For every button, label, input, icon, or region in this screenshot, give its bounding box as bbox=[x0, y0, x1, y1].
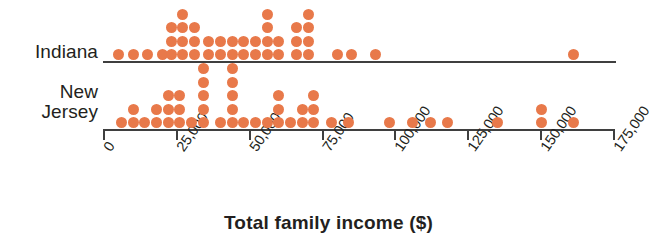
data-point-dot bbox=[177, 22, 188, 33]
data-point-dot bbox=[262, 9, 273, 20]
data-point-dot bbox=[163, 117, 174, 128]
data-point-dot bbox=[442, 117, 453, 128]
data-point-dot bbox=[116, 117, 127, 128]
data-point-dot bbox=[142, 49, 153, 60]
data-point-dot bbox=[174, 104, 185, 115]
data-point-dot bbox=[536, 104, 547, 115]
data-point-dot bbox=[273, 49, 284, 60]
data-point-dot bbox=[308, 90, 319, 101]
data-point-dot bbox=[198, 90, 209, 101]
data-point-dot bbox=[113, 49, 124, 60]
data-point-dot bbox=[227, 104, 238, 115]
data-point-dot bbox=[384, 117, 395, 128]
data-point-dot bbox=[238, 36, 249, 47]
data-point-dot bbox=[303, 9, 314, 20]
data-point-dot bbox=[174, 90, 185, 101]
data-point-dot bbox=[174, 117, 185, 128]
data-point-dot bbox=[189, 36, 200, 47]
x-axis-tick-label: 175,000 bbox=[610, 103, 652, 154]
data-point-dot bbox=[198, 63, 209, 74]
data-point-dot bbox=[128, 117, 139, 128]
data-point-dot bbox=[250, 49, 261, 60]
data-point-dot bbox=[297, 117, 308, 128]
data-point-dot bbox=[227, 90, 238, 101]
data-point-dot bbox=[215, 36, 226, 47]
x-axis-tick-label: 75,000 bbox=[319, 110, 357, 155]
data-point-dot bbox=[303, 22, 314, 33]
data-point-dot bbox=[139, 117, 150, 128]
data-point-dot bbox=[238, 117, 249, 128]
data-point-dot bbox=[297, 104, 308, 115]
dot-plot-chart: Indiana New Jersey 025,00050,00075,00010… bbox=[0, 0, 657, 250]
data-point-dot bbox=[177, 36, 188, 47]
data-point-dot bbox=[291, 22, 302, 33]
data-point-dot bbox=[343, 117, 354, 128]
data-point-dot bbox=[227, 117, 238, 128]
data-point-dot bbox=[273, 36, 284, 47]
data-point-dot bbox=[308, 117, 319, 128]
data-point-dot bbox=[177, 49, 188, 60]
data-point-dot bbox=[163, 90, 174, 101]
data-point-dot bbox=[227, 49, 238, 60]
data-point-dot bbox=[326, 117, 337, 128]
data-point-dot bbox=[128, 104, 139, 115]
data-point-dot bbox=[163, 104, 174, 115]
data-point-dot bbox=[166, 49, 177, 60]
x-axis-tick-label: 0 bbox=[100, 139, 118, 155]
data-point-dot bbox=[151, 117, 162, 128]
data-point-dot bbox=[370, 49, 381, 60]
data-point-dot bbox=[568, 117, 579, 128]
data-point-dot bbox=[151, 104, 162, 115]
data-point-dot bbox=[568, 49, 579, 60]
data-point-dot bbox=[492, 117, 503, 128]
data-point-dot bbox=[227, 63, 238, 74]
data-point-dot bbox=[227, 36, 238, 47]
data-point-dot bbox=[303, 36, 314, 47]
data-point-dot bbox=[166, 22, 177, 33]
data-point-dot bbox=[291, 36, 302, 47]
data-point-dot bbox=[186, 117, 197, 128]
data-point-dot bbox=[189, 49, 200, 60]
data-point-dot bbox=[262, 36, 273, 47]
data-point-dot bbox=[273, 117, 284, 128]
data-point-dot bbox=[227, 77, 238, 88]
x-axis-line bbox=[103, 129, 614, 131]
data-point-dot bbox=[128, 49, 139, 60]
data-point-dot bbox=[291, 49, 302, 60]
data-point-dot bbox=[273, 104, 284, 115]
x-axis-title: Total family income ($) bbox=[0, 212, 657, 234]
data-point-dot bbox=[238, 49, 249, 60]
data-point-dot bbox=[189, 22, 200, 33]
data-point-dot bbox=[285, 117, 296, 128]
data-point-dot bbox=[203, 49, 214, 60]
indiana-baseline bbox=[103, 61, 616, 63]
data-point-dot bbox=[198, 104, 209, 115]
data-point-dot bbox=[262, 117, 273, 128]
data-point-dot bbox=[250, 117, 261, 128]
data-point-dot bbox=[346, 49, 357, 60]
data-point-dot bbox=[262, 49, 273, 60]
data-point-dot bbox=[425, 117, 436, 128]
data-point-dot bbox=[273, 90, 284, 101]
data-point-dot bbox=[332, 49, 343, 60]
data-point-dot bbox=[303, 49, 314, 60]
data-point-dot bbox=[203, 36, 214, 47]
data-point-dot bbox=[308, 104, 319, 115]
data-point-dot bbox=[198, 117, 209, 128]
data-point-dot bbox=[215, 117, 226, 128]
data-point-dot bbox=[215, 49, 226, 60]
data-point-dot bbox=[536, 117, 547, 128]
data-point-dot bbox=[198, 77, 209, 88]
data-point-dot bbox=[177, 9, 188, 20]
data-point-dot bbox=[166, 36, 177, 47]
data-point-dot bbox=[250, 36, 261, 47]
data-point-dot bbox=[262, 22, 273, 33]
